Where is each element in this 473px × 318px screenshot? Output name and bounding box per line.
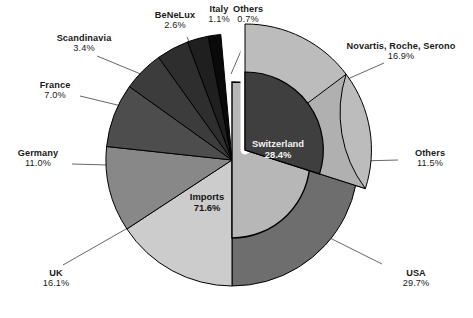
callout-novartis-label: Novartis, Roche, Serono [331, 41, 471, 51]
callout-others-right-value: 11.5% [404, 158, 456, 168]
callout-novartis: Novartis, Roche, Serono 16.9% [331, 41, 471, 62]
callout-others-right-label: Others [404, 148, 456, 158]
callout-scandinavia-value: 3.4% [42, 43, 126, 53]
callout-uk-label: UK [32, 268, 80, 278]
callout-germany-label: Germany [8, 148, 68, 158]
label-switzerland-value: 28.4% [239, 150, 317, 161]
pie-chart: BeNeLux 2.6% Italy 1.1% Others 0.7% Scan… [0, 0, 473, 318]
label-imports: Imports 71.6% [176, 192, 238, 213]
callout-germany: Germany 11.0% [8, 148, 68, 169]
callout-uk: UK 16.1% [32, 268, 80, 289]
callout-france-label: France [27, 80, 83, 90]
callout-scandinavia-label: Scandinavia [42, 33, 126, 43]
callout-uk-value: 16.1% [32, 278, 80, 288]
callout-france: France 7.0% [27, 80, 83, 101]
label-switzerland: Switzerland 28.4% [239, 139, 317, 160]
callout-france-value: 7.0% [27, 90, 83, 100]
callout-others-top: Others 0.7% [222, 4, 274, 25]
callout-usa-label: USA [390, 268, 442, 278]
callout-germany-value: 11.0% [8, 158, 68, 168]
callout-scandinavia: Scandinavia 3.4% [42, 33, 126, 54]
callout-others-right: Others 11.5% [404, 148, 456, 169]
callout-novartis-value: 16.9% [331, 51, 471, 61]
callout-usa-value: 29.7% [390, 278, 442, 288]
callout-others-top-value: 0.7% [222, 14, 274, 24]
label-imports-value: 71.6% [176, 203, 238, 214]
callout-usa: USA 29.7% [390, 268, 442, 289]
callout-others-top-label: Others [222, 4, 274, 14]
